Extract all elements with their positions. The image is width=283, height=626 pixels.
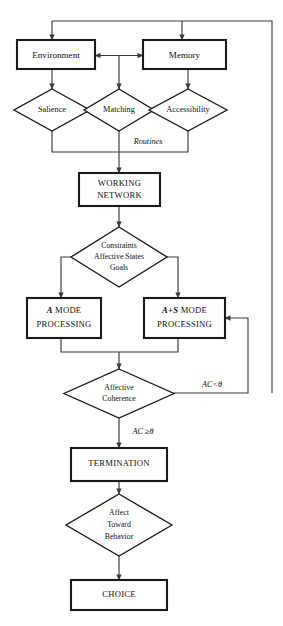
edge-constraints-to-as-mode	[167, 257, 178, 298]
node-as-mode-emph: A+S	[161, 305, 178, 315]
svg-text:A MODE: A MODE	[46, 305, 82, 315]
node-accessibility-label: Accessibility	[166, 105, 210, 114]
node-constraints-line1: Constraints	[101, 241, 137, 250]
node-as-mode-line2: PROCESSING	[157, 319, 212, 329]
node-salience[interactable]: Salience	[14, 89, 90, 131]
node-environment[interactable]: Environment	[17, 40, 95, 69]
node-as-mode-line1-rest: MODE	[178, 305, 207, 315]
edge-a-mode-converge	[61, 338, 119, 352]
node-affective-coherence-line2: Coherence	[102, 394, 136, 403]
node-working-network[interactable]: WORKING NETWORK	[79, 173, 160, 206]
node-matching-label: Matching	[103, 105, 135, 114]
node-matching[interactable]: Matching	[84, 89, 154, 131]
node-a-mode-processing[interactable]: A MODE PROCESSING	[27, 298, 101, 338]
edge-constraints-to-a-mode	[61, 257, 71, 298]
node-environment-label: Environment	[32, 50, 80, 60]
edge-label-routines: Routines	[133, 137, 163, 146]
node-working-network-line1: WORKING	[98, 178, 141, 188]
node-choice-label: CHOICE	[102, 589, 136, 599]
node-working-network-line2: NETWORK	[97, 190, 142, 200]
node-choice[interactable]: CHOICE	[71, 580, 167, 610]
node-termination-label: TERMINATION	[88, 458, 150, 468]
node-accessibility[interactable]: Accessibility	[149, 89, 227, 131]
node-a-mode-line2: PROCESSING	[36, 319, 91, 329]
node-a-mode-line1-rest: MODE	[53, 305, 82, 315]
node-affective-coherence[interactable]: Affective Coherence	[64, 369, 174, 418]
node-constraints-line2: Affective States	[94, 252, 144, 261]
node-as-mode-processing[interactable]: A+S MODE PROCESSING	[144, 298, 225, 338]
node-a-mode-emph: A	[46, 305, 53, 315]
node-constraints[interactable]: Constraints Affective States Goals	[71, 227, 167, 287]
node-memory[interactable]: Memory	[143, 40, 226, 69]
node-affect-toward-behavior[interactable]: Affect Toward Behavior	[66, 494, 172, 556]
node-affect-toward-behavior-line3: Behavior	[105, 532, 134, 541]
edge-salience-converge	[52, 130, 119, 152]
node-affective-coherence-line1: Affective	[104, 383, 134, 392]
edge-label-ac-below-threshold: AC<θ	[201, 380, 222, 389]
flowchart-diagram: Environment Memory Salience Matching Acc…	[0, 0, 283, 626]
node-affect-toward-behavior-line2: Toward	[107, 520, 131, 529]
svg-text:A+S MODE: A+S MODE	[161, 305, 207, 315]
node-affect-toward-behavior-line1: Affect	[109, 508, 130, 517]
edge-label-ac-at-or-above-threshold: AC ≥θ	[131, 427, 153, 436]
flowchart-canvas: Environment Memory Salience Matching Acc…	[0, 0, 283, 626]
node-termination[interactable]: TERMINATION	[71, 448, 167, 481]
node-memory-label: Memory	[169, 50, 201, 60]
node-salience-label: Salience	[38, 105, 66, 114]
edge-as-mode-converge	[119, 338, 178, 352]
node-constraints-line3: Goals	[110, 263, 128, 272]
